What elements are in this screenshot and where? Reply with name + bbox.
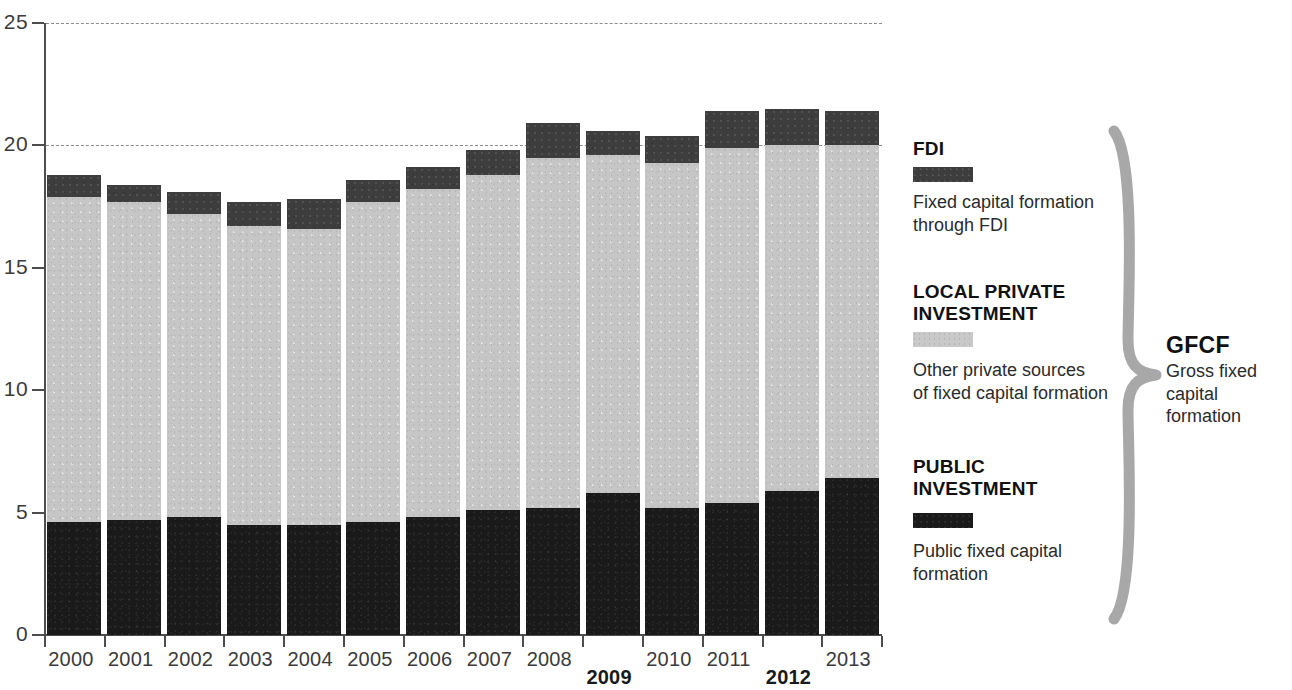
bar-segment-local-2009 <box>586 155 640 493</box>
x-tick-6 <box>403 636 405 647</box>
bar-segment-public-2006 <box>406 517 460 635</box>
y-tick-0 <box>32 634 44 636</box>
bar-segment-public-2009 <box>586 493 640 635</box>
x-axis-label-2001: 2001 <box>101 648 161 671</box>
legend-description-public: Public fixed capital formation <box>913 540 1128 585</box>
x-tick-3 <box>223 636 225 647</box>
legend-title-public-line2: INVESTMENT <box>913 478 1128 500</box>
x-axis-label-2005: 2005 <box>340 648 400 671</box>
x-axis-label-2013: 2013 <box>818 648 878 671</box>
bar-segment-fdi-2009 <box>586 131 640 155</box>
bar-2006 <box>406 0 460 635</box>
bar-segment-public-2001 <box>107 520 161 635</box>
bar-segment-fdi-2010 <box>645 136 699 163</box>
y-axis-label-text: 25 <box>4 10 28 34</box>
legend-title-public: PUBLIC INVESTMENT <box>913 456 1128 500</box>
y-tick-15 <box>32 267 44 269</box>
legend-title-public-line1: PUBLIC <box>913 456 1128 478</box>
gfcf-title: GFCF <box>1166 332 1292 358</box>
x-axis-label-2004: 2004 <box>280 648 340 671</box>
bar-segment-fdi-2003 <box>227 202 281 226</box>
x-axis-label-2002: 2002 <box>161 648 221 671</box>
x-axis-label-2011: 2011 <box>699 648 759 671</box>
bar-segment-fdi-2008 <box>526 123 580 157</box>
legend-description-local-private: Other private sources of fixed capital f… <box>913 359 1128 404</box>
bar-segment-local-2000 <box>47 197 101 523</box>
bar-2005 <box>346 0 400 635</box>
x-tick-0 <box>44 636 46 647</box>
bar-segment-public-2010 <box>645 508 699 635</box>
x-axis-label-2006: 2006 <box>400 648 460 671</box>
x-axis-label-2010: 2010 <box>639 648 699 671</box>
bar-2003 <box>227 0 281 635</box>
x-tick-2 <box>164 636 166 647</box>
x-axis-label-2008: 2008 <box>519 648 579 671</box>
x-tick-4 <box>283 636 285 647</box>
gfcf-description: Gross fixed capital formation <box>1166 360 1292 428</box>
legend-description-local-private-line2: of fixed capital formation <box>913 382 1128 405</box>
legend-title-local-private-line1: LOCAL PRIVATE <box>913 281 1128 303</box>
y-tick-25 <box>32 22 44 24</box>
bar-2007 <box>466 0 520 635</box>
y-axis-label-text: 20 <box>4 132 28 156</box>
bar-2000 <box>47 0 101 635</box>
bar-segment-local-2002 <box>167 214 221 518</box>
bar-segment-fdi-2013 <box>825 111 879 145</box>
x-axis-label-2012: 2012 <box>759 666 819 689</box>
bar-segment-public-2000 <box>47 522 101 635</box>
bar-2012 <box>765 0 819 635</box>
bar-segment-local-2006 <box>406 189 460 517</box>
legend-description-fdi: Fixed capital formation through FDI <box>913 191 1128 236</box>
x-tick-10 <box>642 636 644 647</box>
bar-2013 <box>825 0 879 635</box>
bar-segment-local-2003 <box>227 226 281 525</box>
legend-item-local-private-investment: LOCAL PRIVATE INVESTMENT Other private s… <box>913 281 1128 404</box>
x-tick-5 <box>343 636 345 647</box>
x-axis-label-2000: 2000 <box>41 648 101 671</box>
bar-2008 <box>526 0 580 635</box>
local-private-color-swatch <box>913 332 973 347</box>
y-axis-label-text: 0 <box>16 622 28 646</box>
bar-segment-local-2012 <box>765 145 819 490</box>
bar-segment-local-2004 <box>287 229 341 525</box>
legend-description-fdi-line2: through FDI <box>913 214 1128 237</box>
legend-description-public-line1: Public fixed capital <box>913 540 1128 563</box>
bar-2004 <box>287 0 341 635</box>
x-tick-12 <box>762 636 764 647</box>
legend-description-local-private-line1: Other private sources <box>913 359 1128 382</box>
legend-item-fdi: FDI Fixed capital formation through FDI <box>913 138 1128 236</box>
y-axis-label-text: 5 <box>16 500 28 524</box>
bar-segment-public-2011 <box>705 503 759 635</box>
chart-page: 0510152025 20002001200220032004200520062… <box>0 0 1292 690</box>
gfcf-brace <box>1098 125 1168 625</box>
x-axis-label-2003: 2003 <box>220 648 280 671</box>
bar-segment-local-2001 <box>107 202 161 520</box>
bar-segment-public-2013 <box>825 478 879 635</box>
bar-segment-fdi-2004 <box>287 199 341 228</box>
bar-segment-fdi-2011 <box>705 111 759 148</box>
x-tick-13 <box>821 636 823 647</box>
gfcf-description-line1: Gross fixed <box>1166 360 1292 383</box>
legend-description-public-line2: formation <box>913 563 1128 586</box>
bar-segment-fdi-2006 <box>406 167 460 189</box>
bar-segment-fdi-2002 <box>167 192 221 214</box>
legend-item-public-investment: PUBLIC INVESTMENT Public fixed capital f… <box>913 456 1128 585</box>
x-axis-label-2009: 2009 <box>579 666 639 689</box>
y-axis-line <box>44 23 46 635</box>
bar-segment-local-2010 <box>645 163 699 508</box>
bar-segment-fdi-2005 <box>346 180 400 202</box>
bar-segment-public-2008 <box>526 508 580 635</box>
bar-segment-public-2004 <box>287 525 341 635</box>
bar-2002 <box>167 0 221 635</box>
brace-icon <box>1098 125 1168 625</box>
bar-2010 <box>645 0 699 635</box>
x-tick-9 <box>582 636 584 647</box>
bar-segment-public-2005 <box>346 522 400 635</box>
bar-segment-public-2012 <box>765 491 819 635</box>
x-tick-8 <box>522 636 524 647</box>
x-tick-7 <box>463 636 465 647</box>
plot-area: 0510152025 20002001200220032004200520062… <box>0 0 900 690</box>
y-axis-label-text: 15 <box>4 255 28 279</box>
gfcf-group-label: GFCF Gross fixed capital formation <box>1166 332 1292 428</box>
y-tick-5 <box>32 512 44 514</box>
